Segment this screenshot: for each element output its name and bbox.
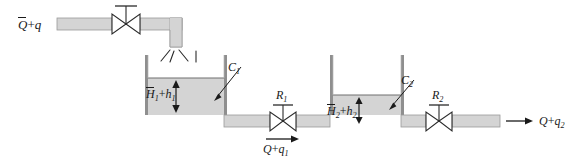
mid-flow-label: Q+q1 xyxy=(263,143,289,159)
tank-two-head-plus: + xyxy=(340,104,347,118)
tank-one-head-plus: + xyxy=(159,87,166,101)
outlet-flow-arrow xyxy=(506,117,533,124)
inlet-flow-label: Q+q xyxy=(18,18,41,31)
resistance1-sub: 1 xyxy=(283,95,287,104)
inlet-control-valve[interactable] xyxy=(112,6,140,34)
resistance2-sub: 2 xyxy=(439,95,443,104)
capacitance1-base: C xyxy=(228,60,236,74)
capacitance2-sub: 2 xyxy=(409,80,413,89)
inlet-splash xyxy=(161,50,196,62)
tank-one-head-base: H xyxy=(146,88,155,100)
capacitance2-base: C xyxy=(401,73,409,87)
outlet-flow-base: Q xyxy=(539,114,548,128)
capacitance1-sub: 1 xyxy=(236,67,240,76)
inlet-flow-term: q xyxy=(35,17,42,32)
inlet-elbow-downcomer xyxy=(170,18,182,47)
mid-flow-base: Q xyxy=(263,142,272,156)
tank-one xyxy=(145,55,227,115)
resistance-valve-r2[interactable] xyxy=(426,105,452,131)
tank-two-head-base: H xyxy=(327,105,336,117)
resistance-valve-r1[interactable] xyxy=(270,105,296,131)
tank-two-head-sub2: 2 xyxy=(353,111,357,120)
capacitance1-label: C1 xyxy=(228,61,240,77)
tank-one-head-sub2: 1 xyxy=(172,94,176,103)
tank-two-head-label: H2+h2 xyxy=(327,105,357,121)
resistance1-label: R1 xyxy=(276,89,287,105)
outlet-flow-sub: 2 xyxy=(560,121,564,130)
resistance2-label: R2 xyxy=(432,89,443,105)
inlet-flow-plus: + xyxy=(27,17,34,32)
tank-one-head-label: H1+h1 xyxy=(146,88,176,104)
capacitance2-label: C2 xyxy=(401,74,413,90)
mid-flow-sub: 1 xyxy=(284,149,288,158)
outlet-flow-label: Q+q2 xyxy=(539,115,565,131)
inlet-flow-base: Q xyxy=(18,18,27,31)
